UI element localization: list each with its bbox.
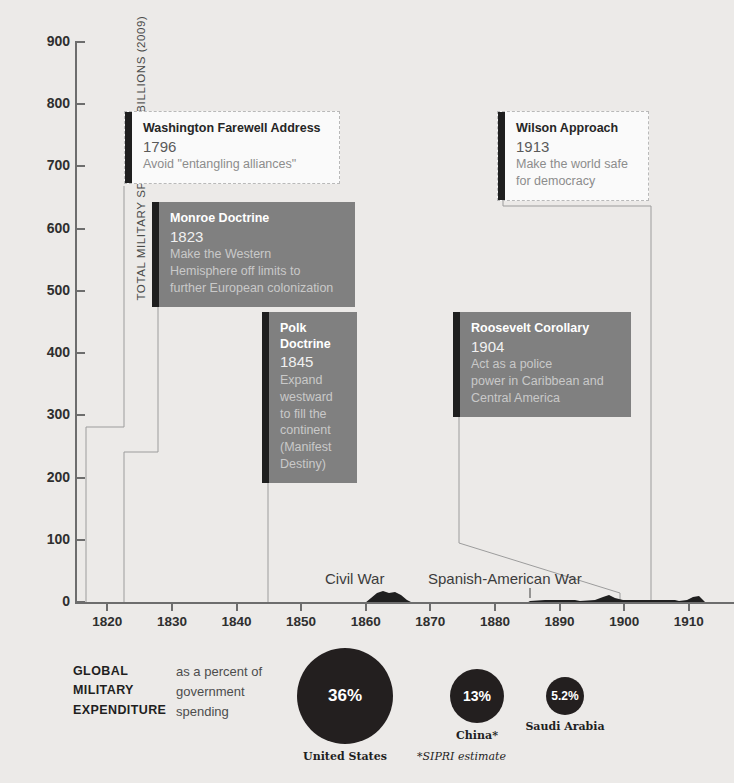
callout-title: Wilson Approach — [516, 121, 636, 137]
callout-title: Monroe Doctrine — [170, 211, 343, 227]
callout-year: 1796 — [143, 137, 327, 157]
x-tick-mark — [365, 602, 367, 611]
callout-desc: Make the world safefor democracy — [516, 156, 636, 190]
global-military-expenditure-panel: GLOBALMILITARYEXPENDITURE as a percent o… — [0, 640, 734, 783]
gme-heading: GLOBALMILITARYEXPENDITURE — [73, 662, 166, 720]
x-tick-mark — [494, 602, 496, 611]
x-axis-line — [75, 602, 734, 604]
callout-title: Washington Farewell Address — [143, 121, 327, 137]
callout-desc: Make the WesternHemisphere off limits to… — [170, 246, 343, 297]
x-tick-mark — [559, 602, 561, 611]
sipri-footnote: *SIPRI estimate — [417, 750, 506, 763]
x-tick-label: 1870 — [400, 614, 460, 629]
x-tick-label: 1820 — [77, 614, 137, 629]
callout-title: Roosevelt Corollary — [471, 321, 619, 337]
callout-spine — [125, 112, 132, 183]
x-tick-mark — [429, 602, 431, 611]
x-tick-label: 1840 — [207, 614, 267, 629]
callout-year: 1904 — [471, 337, 619, 357]
spending-area-series — [75, 560, 734, 604]
callout-title: Polk Doctrine — [280, 321, 345, 352]
callout-polk-doctrine[interactable]: Polk Doctrine 1845 Expand westwardto fil… — [262, 312, 357, 483]
bubble-caption-saudi-arabia: Saudi Arabia — [505, 720, 625, 733]
callout-spine — [498, 112, 505, 200]
callout-year: 1823 — [170, 227, 343, 247]
timeline-chart: TOTAL MILITARY SPENDING IN BILLIONS (200… — [0, 0, 734, 640]
x-tick-label: 1890 — [530, 614, 590, 629]
callout-desc: Act as a policepower in Caribbean andCen… — [471, 356, 619, 407]
x-tick-label: 1850 — [271, 614, 331, 629]
x-tick-mark — [106, 602, 108, 611]
callout-roosevelt-corollary[interactable]: Roosevelt Corollary 1904 Act as a police… — [453, 312, 631, 417]
x-tick-label: 1860 — [336, 614, 396, 629]
x-tick-mark — [171, 602, 173, 611]
callout-year: 1845 — [280, 352, 345, 372]
bubble-saudi-arabia[interactable]: 5.2% — [546, 677, 584, 715]
x-tick-label: 1880 — [465, 614, 525, 629]
x-tick-mark — [236, 602, 238, 611]
war-label-spanish-american-war: Spanish-American War — [428, 570, 582, 587]
bubble-value: 36% — [328, 686, 362, 706]
bubble-value: 5.2% — [551, 689, 578, 703]
callout-spine — [152, 202, 159, 307]
bubble-united-states[interactable]: 36% — [297, 648, 393, 744]
bubble-china[interactable]: 13% — [450, 669, 504, 723]
x-tick-mark — [300, 602, 302, 611]
callout-monroe-doctrine[interactable]: Monroe Doctrine 1823 Make the WesternHem… — [152, 202, 355, 307]
callout-washington-farewell-address[interactable]: Washington Farewell Address 1796 Avoid "… — [124, 111, 340, 184]
infographic-root: TOTAL MILITARY SPENDING IN BILLIONS (200… — [0, 0, 734, 783]
x-tick-mark — [623, 602, 625, 611]
bubble-caption-united-states: United States — [285, 750, 405, 763]
callout-spine — [453, 312, 460, 417]
x-tick-label: 1900 — [594, 614, 654, 629]
x-tick-label: 1830 — [142, 614, 202, 629]
gme-subtitle: as a percent ofgovernmentspending — [176, 662, 262, 722]
callout-spine — [262, 312, 269, 483]
x-tick-mark — [688, 602, 690, 611]
callout-desc: Expand westwardto fill the continent(Man… — [280, 372, 345, 473]
callout-wilson-approach[interactable]: Wilson Approach 1913 Make the world safe… — [497, 111, 649, 201]
x-tick-label: 1910 — [659, 614, 719, 629]
callout-year: 1913 — [516, 137, 636, 157]
war-label-civil-war: Civil War — [325, 570, 384, 587]
callout-desc: Avoid "entangling alliances" — [143, 156, 327, 173]
bubble-value: 13% — [463, 688, 491, 704]
